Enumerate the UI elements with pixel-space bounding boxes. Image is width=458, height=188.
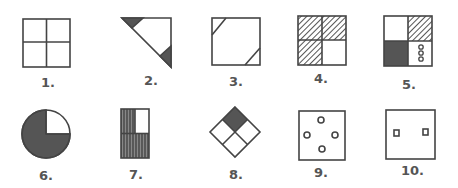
figure-2-triangle-shaded-corners — [122, 18, 171, 67]
figure-label-1: 1. — [41, 75, 55, 90]
figure-7-vertical-hatched-rectangle — [121, 109, 149, 158]
figure-3-square-cut-corners — [212, 18, 260, 65]
figure-10-square-two-small-squares — [386, 110, 435, 159]
figure-label-3: 3. — [229, 74, 243, 89]
figure-4-three-hatched-quadrants — [298, 16, 346, 65]
figure-label-9: 9. — [314, 165, 328, 180]
figure-1-quartered-square — [23, 19, 70, 67]
figure-9-square-four-circles — [299, 111, 345, 160]
figure-label-10: 10. — [401, 163, 424, 178]
figure-8-diamond-top-shaded — [210, 107, 260, 157]
figure-label-2: 2. — [144, 73, 158, 88]
figure-label-7: 7. — [129, 167, 143, 182]
figure-6-pie-three-quarters — [22, 110, 70, 158]
figure-diagram: 1. 2. 3. 4. 5. 6. 7. 8. 9. 10. — [0, 0, 458, 188]
figure-5-mixed-quadrants — [384, 16, 432, 66]
figure-label-5: 5. — [402, 77, 416, 92]
figure-label-4: 4. — [314, 71, 328, 86]
figure-label-6: 6. — [39, 168, 53, 183]
figure-label-8: 8. — [229, 167, 243, 182]
